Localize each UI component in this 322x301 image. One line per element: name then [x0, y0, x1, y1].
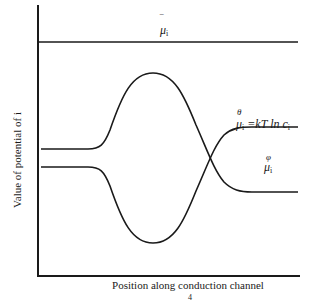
- y-axis-label: Value of potential of i: [11, 112, 23, 208]
- concentration-equation-label: μi =kT ln ci: [236, 115, 290, 132]
- electrical-mu-label: μi: [264, 158, 272, 175]
- diagram-canvas: [0, 0, 322, 301]
- equation-text: =kT ln c: [244, 117, 288, 131]
- lower-start-curve: [41, 127, 298, 243]
- mu-bar-label: ‾ μi: [160, 21, 168, 38]
- subscript-i: i: [270, 166, 272, 175]
- subscript-i: i: [288, 123, 290, 132]
- subscript-i: i: [166, 29, 168, 38]
- footer-mark: 4: [188, 293, 192, 301]
- bar-accent: ‾: [160, 15, 163, 25]
- x-axis-label: Position along conduction channel: [112, 279, 264, 291]
- mu-symbol: μ: [160, 23, 166, 37]
- upper-start-curve: [41, 73, 298, 192]
